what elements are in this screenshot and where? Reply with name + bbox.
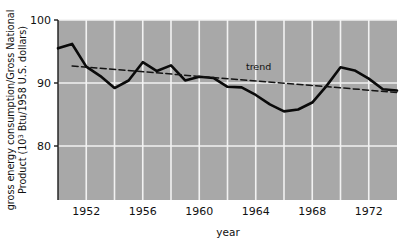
figure-canvas: 1009080 195219561960196419681972 trend y… — [0, 0, 417, 243]
y-axis-title-suffix: Btu/1958 U.S. dollars) — [17, 26, 28, 134]
y-axis-title-line1: gross energy consumption/Gross National — [5, 10, 16, 211]
y-tick-label-100: 100 — [30, 14, 51, 27]
y-axis-title-line2: Product (103 Btu/1958 U.S. dollars) — [17, 26, 28, 194]
y-tick-label-80: 80 — [37, 140, 51, 153]
x-tick-labels: 195219561960196419681972 — [72, 205, 383, 218]
y-tick-labels: 1009080 — [30, 14, 51, 153]
line-chart: 1009080 195219561960196419681972 trend y… — [0, 0, 417, 243]
axis-spines — [54, 20, 58, 200]
x-tick-label-1956: 1956 — [129, 205, 157, 218]
x-tick-label-1960: 1960 — [185, 205, 213, 218]
x-tick-label-1968: 1968 — [298, 205, 326, 218]
y-tick-label-90: 90 — [37, 77, 51, 90]
x-axis-title: year — [216, 226, 240, 238]
x-tick-label-1964: 1964 — [242, 205, 270, 218]
x-tick-label-1952: 1952 — [72, 205, 100, 218]
trend-line-annotation: trend — [246, 61, 271, 72]
x-tick-label-1972: 1972 — [355, 205, 383, 218]
y-axis-title-prefix: Product (10 — [17, 139, 28, 194]
